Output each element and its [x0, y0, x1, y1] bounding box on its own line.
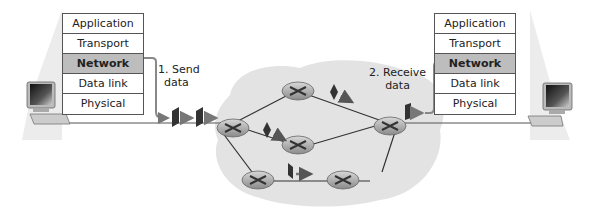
layer-transport: Transport: [435, 34, 515, 54]
receive-data-label: 2. Receive data: [369, 66, 426, 92]
layer-physical: Physical: [63, 94, 143, 114]
receive-label-line2: data: [369, 79, 426, 92]
packet-icon: [172, 107, 179, 127]
sender-protocol-stack: Application Transport Network Data link …: [62, 13, 144, 115]
router-icon: [374, 117, 406, 135]
receive-label-line1: 2. Receive: [369, 66, 426, 79]
send-data-label: 1. Send data: [158, 63, 200, 89]
router-icon: [217, 119, 249, 137]
layer-physical: Physical: [435, 94, 515, 114]
layer-transport: Transport: [63, 34, 143, 54]
router-icon: [242, 171, 274, 189]
router-icon: [282, 136, 314, 154]
layer-application: Application: [63, 14, 143, 34]
layer-data-link: Data link: [435, 74, 515, 94]
router-icon: [282, 82, 314, 100]
layer-network: Network: [63, 54, 143, 74]
send-label-line2: data: [158, 76, 200, 89]
layer-data-link: Data link: [63, 74, 143, 94]
layer-network: Network: [435, 54, 515, 74]
network-diagram: Application Transport Network Data link …: [0, 0, 593, 215]
router-icon: [327, 171, 359, 189]
packet-icon: [196, 107, 203, 127]
receiver-protocol-stack: Application Transport Network Data link …: [434, 13, 516, 115]
send-label-line1: 1. Send: [158, 63, 200, 76]
packet-icon: [405, 103, 411, 120]
layer-application: Application: [435, 14, 515, 34]
